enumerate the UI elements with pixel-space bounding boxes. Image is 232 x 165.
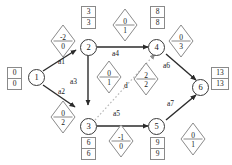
float-diamond-a4: 0 1	[112, 8, 138, 42]
float-diamond-a2-den: 2	[50, 119, 76, 127]
time-box-node-5-late: 9	[151, 149, 164, 159]
node-1-label: 1	[34, 73, 38, 82]
time-box-node-2: 3 3	[81, 6, 96, 29]
node-5-label: 5	[154, 122, 158, 131]
node-1[interactable]: 1	[28, 69, 45, 86]
time-box-node-4: 8 8	[150, 6, 165, 29]
float-diamond-a1-den: 0	[50, 43, 76, 51]
node-2[interactable]: 2	[80, 39, 97, 56]
edge-label-a6: a6	[163, 62, 170, 70]
node-4-label: 4	[154, 43, 158, 52]
float-diamond-a2-num: 0	[50, 110, 76, 118]
node-4[interactable]: 4	[148, 39, 165, 56]
time-box-node-5-early: 9	[151, 138, 164, 149]
float-diamond-a6-num: 0	[168, 34, 194, 42]
float-diamond-a4-num: 0	[112, 18, 138, 26]
node-6[interactable]: 6	[192, 79, 209, 96]
node-2-label: 2	[86, 43, 90, 52]
time-box-node-6: 13 13	[211, 67, 229, 90]
time-box-node-1-late: 0	[8, 79, 21, 89]
time-box-node-4-early: 8	[151, 7, 164, 18]
float-diamond-d-num: 2	[133, 72, 159, 80]
time-box-node-2-late: 3	[82, 18, 95, 28]
float-diamond-a7-num: 0	[180, 132, 206, 140]
edge-label-a7: a7	[167, 100, 174, 108]
float-diamond-a6-den: 3	[168, 43, 194, 51]
network-diagram: 1 2 3 4 5 6 0 0 3 3 8 8 13 13 6 6 9 9	[0, 0, 232, 165]
float-diamond-a1: -2 0	[50, 24, 76, 58]
time-box-node-5: 9 9	[150, 137, 165, 160]
float-diamond-a6: 0 3	[168, 24, 194, 58]
edge-label-d: d	[124, 82, 128, 90]
node-3[interactable]: 3	[80, 118, 97, 135]
float-diamond-a1-num: -2	[50, 34, 76, 42]
float-diamond-a5: -1 0	[108, 124, 134, 158]
time-box-node-2-early: 3	[82, 7, 95, 18]
time-box-node-3-early: 6	[82, 138, 95, 149]
float-diamond-a7-den: 1	[180, 141, 206, 149]
float-diamond-a4-den: 1	[112, 27, 138, 35]
float-diamond-a3: 0 1	[96, 60, 122, 94]
float-diamond-d-den: 2	[133, 81, 159, 89]
time-box-node-6-early: 13	[212, 68, 228, 79]
time-box-node-1: 0 0	[7, 67, 22, 90]
time-box-node-3-late: 6	[82, 149, 95, 159]
time-box-node-1-early: 0	[8, 68, 21, 79]
edge-label-a5: a5	[113, 110, 120, 118]
float-diamond-a7: 0 1	[180, 122, 206, 156]
time-box-node-4-late: 8	[151, 18, 164, 28]
time-box-node-3: 6 6	[81, 137, 96, 160]
node-3-label: 3	[86, 122, 90, 131]
edge-label-a3: a3	[70, 78, 77, 86]
node-5[interactable]: 5	[148, 118, 165, 135]
node-6-label: 6	[198, 83, 202, 92]
edge-label-a4: a4	[112, 50, 119, 58]
edge-label-a1: a1	[58, 58, 65, 66]
float-diamond-a2: 0 2	[50, 100, 76, 134]
float-diamond-a5-num: -1	[108, 134, 134, 142]
time-box-node-6-late: 13	[212, 79, 228, 89]
float-diamond-a3-num: 0	[96, 70, 122, 78]
float-diamond-a3-den: 1	[96, 79, 122, 87]
float-diamond-a5-den: 0	[108, 143, 134, 151]
float-diamond-d: 2 2	[133, 62, 159, 96]
edge-label-a2: a2	[58, 88, 65, 96]
